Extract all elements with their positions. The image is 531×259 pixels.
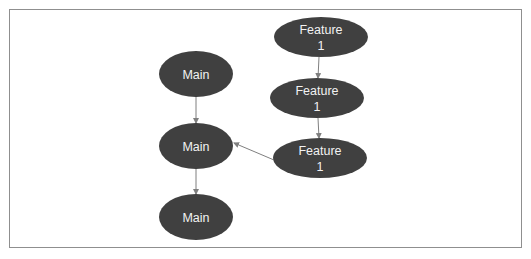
- edge-arrow-feat1b-to-feat1c: [318, 118, 319, 138]
- edge-arrow-feat1c-to-main2: [234, 143, 274, 160]
- branch-diagram: MainMainMainFeature1Feature1Feature1: [0, 0, 531, 259]
- node-main2[interactable]: Main: [159, 123, 233, 169]
- node-feat1c[interactable]: Feature1: [273, 138, 367, 178]
- node-label: Feature: [299, 23, 342, 37]
- node-label: 1: [314, 100, 321, 114]
- nodes-layer: MainMainMainFeature1Feature1Feature1: [159, 17, 368, 240]
- node-label: Main: [182, 68, 209, 82]
- node-label: Feature: [298, 144, 341, 158]
- node-label: 1: [318, 39, 325, 53]
- node-label: Main: [182, 211, 209, 225]
- node-label: 1: [317, 160, 324, 174]
- edge-arrow-feat1a-to-feat1b: [318, 57, 319, 78]
- node-main1[interactable]: Main: [159, 51, 233, 97]
- node-label: Feature: [295, 84, 338, 98]
- node-feat1b[interactable]: Feature1: [270, 78, 364, 118]
- node-label: Main: [182, 140, 209, 154]
- node-main3[interactable]: Main: [159, 194, 233, 240]
- node-feat1a[interactable]: Feature1: [274, 17, 368, 57]
